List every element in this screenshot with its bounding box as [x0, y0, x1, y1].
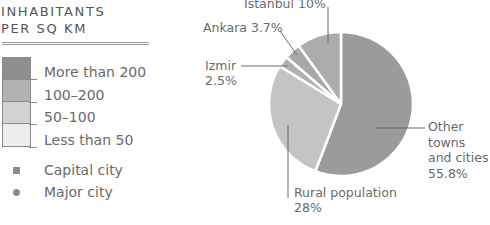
pie-label-other-towns-line: Other	[428, 119, 464, 134]
population-pie-chart: Othertownsand cities55.8%Rural populatio…	[0, 0, 490, 225]
pie-label-other-towns-line: and cities	[428, 150, 488, 165]
pie-label-izmir-line: Izmir	[205, 58, 237, 73]
pie-label-izmir: Izmir2.5%	[205, 58, 237, 88]
pie-label-other-towns: Othertownsand cities55.8%	[428, 119, 488, 181]
pie-label-other-towns-line: towns	[428, 135, 465, 150]
pie-label-other-towns-line: 55.8%	[428, 166, 468, 181]
pie-label-istanbul: Istanbul 10%	[244, 0, 326, 11]
pie-label-izmir-line: 2.5%	[205, 73, 237, 88]
pie-label-istanbul-line: Istanbul 10%	[244, 0, 326, 11]
pie-label-rural: Rural population28%	[294, 185, 397, 215]
pie-label-rural-line: Rural population	[294, 185, 397, 200]
pie-label-rural-line: 28%	[294, 200, 322, 215]
pie-label-ankara: Ankara 3.7%	[203, 20, 283, 35]
pie-label-ankara-line: Ankara 3.7%	[203, 20, 283, 35]
